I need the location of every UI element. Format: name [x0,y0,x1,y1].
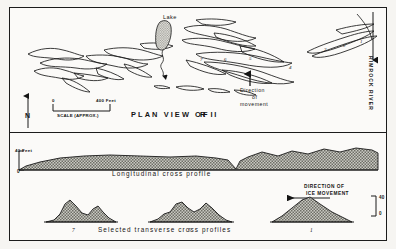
ice-movement-label-line2: ICE MOVEMENT [306,192,349,197]
scale-bar [53,104,110,111]
plan-drumlin-number-5: 5 [249,56,252,61]
lake-shape [156,21,172,50]
transverse-profile-1 [270,197,354,222]
plan-drumlin-number-3: 3 [324,47,327,52]
scale-bar-max-label: 400 Feet [96,99,116,103]
plan-drumlin-group-left [28,43,173,92]
north-label: N [25,112,30,119]
feature-id-label: R II [200,111,218,118]
transverse-profile-number-5: 5 [188,227,191,233]
scale-bar-zero-label: 0 [52,99,55,103]
figure-graphics [0,0,396,249]
ice-movement-label-line1: DIRECTION OF [304,185,344,190]
longitudinal-scale-bottom-label: 0 [17,170,20,175]
direction-of-movement-line2: of [252,95,257,100]
plan-drumlin-number-6: 6 [224,57,227,62]
rimrock-river-bank [357,14,372,40]
transverse-vertical-scale [371,196,376,216]
transverse-profile-5 [148,202,234,222]
plan-drumlin-number-1: 1 [360,39,363,44]
longitudinal-scale-top-label: 40 Feet [15,149,32,153]
transverse-profile-number-1: 1 [310,227,313,233]
page-title: PLAN VIEW OF [131,111,210,118]
direction-of-movement-line3: movement [240,102,268,107]
transverse-scale-bottom-label: 0 [379,212,382,217]
plan-drumlin-group-center [182,19,294,84]
plan-drumlin-number-7: 7 [200,57,203,62]
scale-caption: SCALE (APPROX.) [57,114,99,118]
transverse-profile-number-7: 7 [72,227,75,233]
transverse-profiles-caption: Selected transverse cross profiles [98,227,231,233]
longitudinal-cross-profile [19,148,378,170]
transverse-profile-7 [44,200,118,222]
lake-label: Lake [163,15,177,21]
plan-drumlin-number-2: 2 [343,43,346,48]
figure-plan-view-r11: Lake PLAN VIEW OF R II Direction of move… [0,0,396,249]
rimrock-river-label: RIMROCK RIVER [368,56,373,111]
plan-drumlin-number-4: 4 [289,65,292,70]
transverse-scale-top-label: 40 [379,196,385,201]
plan-drumlin-group-right [307,24,377,57]
longitudinal-profile-caption: Longitudinal cross profile [112,171,211,177]
direction-of-movement-line1: Direction [240,88,265,93]
lake-outlet-stream [161,50,164,76]
